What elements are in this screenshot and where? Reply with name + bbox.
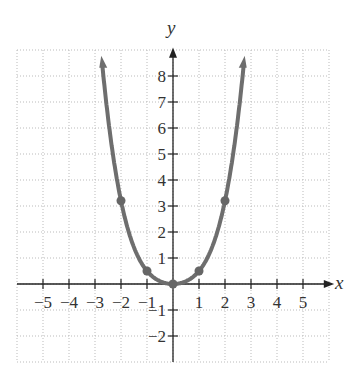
- svg-text:−1: −1: [148, 301, 166, 320]
- y-axis-label: y: [165, 17, 176, 38]
- axes: [17, 47, 334, 362]
- svg-text:1: 1: [195, 293, 204, 312]
- svg-text:4: 4: [273, 293, 282, 312]
- svg-text:−4: −4: [60, 293, 79, 312]
- svg-text:3: 3: [158, 197, 167, 216]
- svg-text:−3: −3: [86, 293, 104, 312]
- svg-text:−2: −2: [112, 293, 130, 312]
- svg-text:3: 3: [247, 293, 256, 312]
- svg-text:−2: −2: [148, 327, 166, 346]
- svg-text:2: 2: [158, 223, 167, 242]
- svg-text:−5: −5: [34, 293, 52, 312]
- svg-text:6: 6: [158, 119, 167, 138]
- parabola-chart: −5−4−3−2−112345−2−112345678 x y: [0, 0, 353, 378]
- svg-text:8: 8: [158, 67, 167, 86]
- svg-text:7: 7: [158, 93, 167, 112]
- svg-text:5: 5: [158, 145, 167, 164]
- svg-text:1: 1: [158, 249, 167, 268]
- svg-text:5: 5: [299, 293, 308, 312]
- x-axis-label: x: [334, 272, 344, 293]
- svg-text:4: 4: [158, 171, 167, 190]
- svg-text:2: 2: [221, 293, 230, 312]
